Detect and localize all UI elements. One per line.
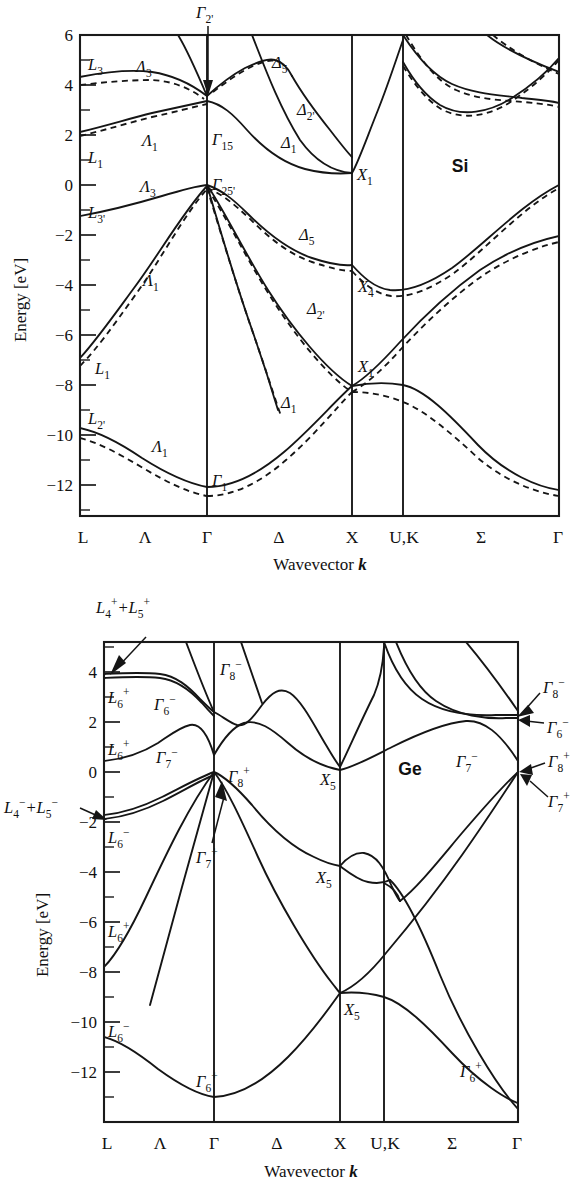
ge-label-gamma8minus-right: Γ8− <box>542 676 565 700</box>
si-ytick-m6: −6 <box>55 326 73 345</box>
ge-band-structure-panel: 4 2 0 −2 −4 −6 −8 −10 −12 Energy [eV] L … <box>0 575 587 1195</box>
si-xtick-X: X <box>346 527 359 547</box>
si-band-delta1-X1 <box>207 101 352 174</box>
si-material-label: Si <box>452 156 469 176</box>
ge-band-sigma-cb-b <box>396 642 518 718</box>
ge-band-X5-deep-down <box>340 993 518 1103</box>
si-ytick-m8: −8 <box>55 376 73 395</box>
si-band-L2p-lambda1-dash <box>80 438 207 496</box>
ge-band-X5-mid-right-b <box>340 853 400 901</box>
ge-band-sigma-vb-a <box>400 772 518 901</box>
ge-ytick-m10: −10 <box>70 1013 97 1032</box>
si-label-delta1: Δ1 <box>280 133 297 155</box>
ge-y-axis-title: Energy [eV] <box>33 893 52 977</box>
si-xtick-L: L <box>78 527 89 547</box>
si-band-right-descend <box>487 35 559 72</box>
si-label-lambda1-deep: Λ1 <box>150 437 168 459</box>
si-ytick-6: 6 <box>65 26 74 45</box>
si-xtick-G1: Γ <box>202 527 212 547</box>
ge-label-gamma6minus-right: Γ6− <box>546 716 569 740</box>
ge-chart-svg: 4 2 0 −2 −4 −6 −8 −10 −12 Energy [eV] L … <box>0 575 587 1195</box>
si-y-axis-title: Energy [eV] <box>11 258 30 342</box>
si-label-X1-cb: X1 <box>356 165 373 187</box>
ge-ytick-m8: −8 <box>79 963 97 982</box>
si-band-gamma25p-steep <box>207 185 278 410</box>
si-label-delta1-vb: Δ1 <box>280 393 297 415</box>
si-label-lambda3: Λ3 <box>134 57 152 79</box>
si-label-L2p: L2' <box>87 409 105 431</box>
ge-band-delta-steep-up <box>241 642 262 703</box>
ge-label-gamma7plus-right: Γ7+ <box>547 790 570 814</box>
si-label-delta5: Δ5 <box>271 53 288 75</box>
ge-xtick-X: X <box>334 1133 347 1153</box>
ge-material-label: Ge <box>398 759 422 779</box>
si-band-L1-lambda1 <box>80 101 207 132</box>
ge-band-X-up-right-cb <box>340 647 384 767</box>
ge-xtick-Del: Δ <box>271 1133 282 1153</box>
si-label-L1-vb: L1 <box>94 359 110 381</box>
si-band-gamma25p-steep-dash <box>207 188 281 416</box>
si-label-gamma1: Γ1 <box>211 471 227 493</box>
ge-ytick-2: 2 <box>89 713 98 732</box>
si-label-gamma2p: Γ2' <box>195 3 213 25</box>
ge-ytick-4: 4 <box>89 663 98 682</box>
ge-band-right-descend <box>466 642 518 711</box>
ge-band-gamma-down-left <box>150 772 214 1005</box>
si-x-axis-title: Wavevector k <box>273 555 367 574</box>
ge-label-X5-mid: X5 <box>315 868 332 890</box>
si-label-lambda3-vb: Λ3 <box>138 177 156 199</box>
si-label-X1-vb: X1 <box>357 357 374 379</box>
ge-band-right-lowest <box>390 880 518 1109</box>
ge-label-gamma8plus-right: Γ8+ <box>547 750 570 774</box>
si-band-gamma1-to-X1 <box>207 386 352 487</box>
si-xtick-Del: Δ <box>273 527 284 547</box>
si-xtick-UK: U,K <box>389 527 419 547</box>
ge-label-L4minus-L5minus: L4−+L5− <box>3 796 58 820</box>
ge-band-L4L5-minus <box>104 772 214 815</box>
ge-band-sigma-cb-a <box>384 642 518 715</box>
si-band-structure-panel: 6 4 2 0 −2 −4 −6 −8 −10 −12 Energy [eV] … <box>0 0 587 575</box>
ge-ytick-0: 0 <box>89 763 98 782</box>
ge-label-L6plus-lower: L6+ <box>107 738 129 762</box>
si-label-L3p: L3' <box>87 203 105 225</box>
si-ytick-2: 2 <box>65 126 74 145</box>
ge-gamma7plus-right-annotation: Γ7+ <box>520 774 570 814</box>
si-ytick-4: 4 <box>65 76 74 95</box>
ge-ytick-m6: −6 <box>79 913 97 932</box>
ge-xtick-G2: Γ <box>512 1133 522 1153</box>
ge-band-sigma-cb-hump <box>340 721 518 770</box>
ge-label-X5-cb: X5 <box>319 770 336 792</box>
si-label-gamma25p: Γ25' <box>211 175 235 197</box>
si-ytick-0: 0 <box>65 176 74 195</box>
ge-gamma6minus-right-annotation: Γ6− <box>518 715 569 740</box>
si-ytick-m2: −2 <box>55 226 73 245</box>
si-band-X-up-right <box>352 40 403 173</box>
si-band-L2p-lambda1 <box>80 428 207 487</box>
ge-label-gamma7minus: Γ7− <box>155 746 178 770</box>
si-label-X4: X4 <box>357 277 374 299</box>
ge-ytick-m12: −12 <box>70 1063 97 1082</box>
ge-x-axis-title: Wavevector k <box>264 1162 358 1181</box>
si-band-X1-rise-right <box>352 236 559 386</box>
ge-label-X5-deep: X5 <box>343 1000 360 1022</box>
ge-label-gamma7minus-right: Γ7− <box>455 750 478 774</box>
ge-gamma8minus-right-annotation: Γ8− <box>517 676 565 717</box>
si-band-X1-sigma-lower <box>352 383 559 490</box>
si-ytick-m4: −4 <box>55 276 74 295</box>
si-label-L1: L1 <box>87 148 103 170</box>
ge-label-L6minus: L6− <box>107 826 129 850</box>
ge-label-gamma6plus-right: Γ6+ <box>459 1060 482 1084</box>
si-xtick-Lam: Λ <box>139 527 152 547</box>
ge-label-gamma8minus: Γ8− <box>219 658 242 682</box>
ge-xtick-L: L <box>102 1133 113 1153</box>
si-band-sigma-cb-upper-dash <box>403 60 559 116</box>
si-label-delta5-vb: Δ5 <box>298 225 315 247</box>
ge-label-gamma6minus: Γ6− <box>153 693 176 717</box>
ge-xtick-Lam: Λ <box>154 1133 167 1153</box>
ge-xtick-UK: U,K <box>370 1133 400 1153</box>
si-band-delta2p-valence-dash <box>207 188 352 392</box>
ge-xtick-G1: Γ <box>209 1133 219 1153</box>
si-label-L3: L3 <box>87 55 103 77</box>
si-chart-svg: 6 4 2 0 −2 −4 −6 −8 −10 −12 Energy [eV] … <box>0 0 587 575</box>
ge-label-L6plus-deep: L6+ <box>107 920 129 944</box>
